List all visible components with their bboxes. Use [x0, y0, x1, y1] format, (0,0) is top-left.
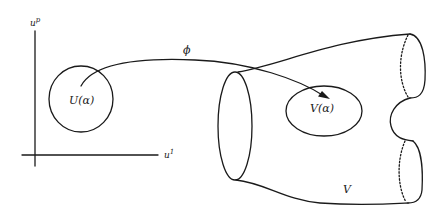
manifold-notch — [390, 98, 413, 141]
vertical-axis-label: up — [30, 17, 40, 28]
manifold-left-opening — [218, 72, 252, 180]
manifold-bottom-edge — [236, 180, 408, 205]
phi-arrow-curve — [81, 59, 324, 96]
horizontal-axis-label: u1 — [164, 149, 174, 160]
manifold-right-upper-cap — [410, 34, 425, 98]
phi-label: ϕ — [183, 45, 191, 56]
manifold-top-edge — [238, 34, 410, 72]
lower-dashed-rim — [399, 141, 406, 202]
phi-arrowhead — [318, 91, 330, 99]
manifold-v-label: V — [343, 184, 351, 195]
vertical-axis-label-sup: p — [36, 16, 40, 24]
diagram-canvas — [0, 0, 439, 215]
horizontal-axis-label-sup: 1 — [170, 148, 174, 156]
upper-dashed-rim — [401, 35, 409, 97]
manifold-right-lower-cap — [408, 141, 422, 203]
u-alpha-label: U(α) — [69, 95, 94, 106]
v-alpha-label: V(α) — [310, 103, 334, 114]
